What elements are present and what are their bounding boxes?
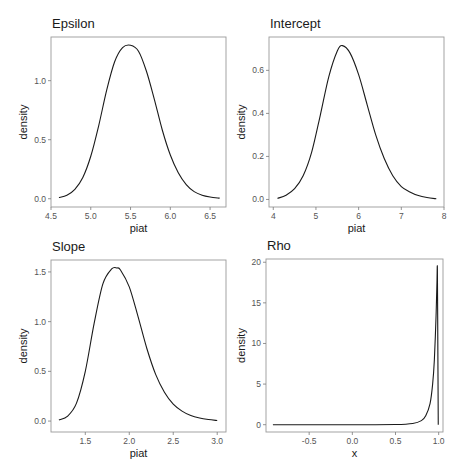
plot-frame <box>269 37 444 207</box>
x-axis-label: piat <box>130 222 148 234</box>
x-tick-label: 5.5 <box>125 211 137 221</box>
figure: Epsilon4.55.05.56.06.50.00.51.0piatdensi… <box>0 0 461 471</box>
y-axis-label: density <box>17 104 29 139</box>
y-tick-label: 1.5 <box>34 267 46 277</box>
y-tick-label: 20 <box>252 257 262 267</box>
x-tick-label: 6.5 <box>204 211 216 221</box>
y-tick-label: 0.4 <box>252 108 264 118</box>
panel-title: Slope <box>52 239 85 254</box>
y-tick-label: 1.0 <box>34 317 46 327</box>
x-tick-label: 1.5 <box>79 436 91 446</box>
y-tick-label: 0.0 <box>252 194 264 204</box>
y-tick-label: 5 <box>256 379 261 389</box>
y-tick-label: 0.5 <box>34 366 46 376</box>
panel-intercept: Intercept456780.00.20.40.6piatdensity <box>235 16 447 234</box>
x-tick-label: 0.5 <box>390 436 402 446</box>
x-tick-label: 6.0 <box>164 211 176 221</box>
y-tick-label: 0.6 <box>252 65 264 75</box>
x-tick-label: 4 <box>271 211 276 221</box>
x-tick-label: 7 <box>399 211 404 221</box>
x-tick-label: 5.0 <box>85 211 97 221</box>
x-tick-label: 5 <box>314 211 319 221</box>
panel-title: Rho <box>267 238 291 253</box>
x-tick-label: -0.5 <box>302 436 317 446</box>
y-tick-label: 0.5 <box>34 135 46 145</box>
x-tick-label: 8 <box>442 211 447 221</box>
x-axis-label: x <box>352 447 358 459</box>
x-axis-label: piat <box>130 447 148 459</box>
y-tick-label: 0.0 <box>34 194 46 204</box>
x-tick-label: 2.0 <box>123 436 135 446</box>
x-tick-label: 3.0 <box>211 436 223 446</box>
y-tick-label: 0.0 <box>34 416 46 426</box>
y-tick-label: 10 <box>252 338 262 348</box>
y-axis-label: density <box>235 104 247 139</box>
x-tick-label: 6 <box>356 211 361 221</box>
x-tick-label: 1.0 <box>433 436 445 446</box>
x-axis-label: piat <box>348 222 366 234</box>
plot-frame <box>51 260 226 432</box>
y-tick-label: 0.2 <box>252 151 264 161</box>
y-tick-label: 15 <box>252 298 262 308</box>
y-axis-label: density <box>17 328 29 363</box>
x-tick-label: 2.5 <box>167 436 179 446</box>
panel-rho: Rho-0.50.00.51.005101520xdensity <box>235 238 445 459</box>
panel-title: Epsilon <box>52 16 95 31</box>
panel-slope: Slope1.52.02.53.00.00.51.01.5piatdensity <box>17 239 226 459</box>
panel-epsilon: Epsilon4.55.05.56.06.50.00.51.0piatdensi… <box>17 16 226 234</box>
x-tick-label: 4.5 <box>45 211 57 221</box>
y-axis-label: density <box>235 328 247 363</box>
plot-frame <box>51 37 226 207</box>
y-tick-label: 0 <box>256 420 261 430</box>
panel-title: Intercept <box>270 16 321 31</box>
y-tick-label: 1.0 <box>34 76 46 86</box>
x-tick-label: 0.0 <box>346 436 358 446</box>
plot-frame <box>266 259 443 432</box>
